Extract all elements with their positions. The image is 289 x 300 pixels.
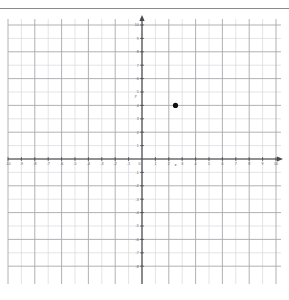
x-axis-tick-label: 5 (208, 162, 210, 166)
y-axis-tick-label: -3 (136, 198, 139, 202)
y-axis-tick-label: 5 (137, 90, 139, 94)
y-axis-tick-label: -8 (136, 265, 139, 269)
x-axis-tick-label: 3 (181, 162, 183, 166)
y-axis-tick-label: 4 (137, 104, 139, 108)
x-axis-tick-label: -1 (127, 162, 130, 166)
x-axis-tick-label: -6 (60, 162, 63, 166)
minor-gridlines (8, 19, 281, 284)
axis-lines (8, 15, 283, 284)
x-axis-tick-label: -8 (33, 162, 36, 166)
x-axis-tick-label: 8 (248, 162, 250, 166)
x-axis-tick-label: 4 (195, 162, 197, 166)
x-axis-tick-label: -4 (87, 162, 90, 166)
y-axis-tick-label: 10 (135, 23, 139, 27)
plotted-point (173, 103, 178, 108)
y-axis-tick-label: -1 (136, 171, 139, 175)
x-axis-tick-label: 7 (235, 162, 237, 166)
major-gridlines (8, 19, 281, 284)
x-axis-tick-label: 10 (274, 162, 278, 166)
y-axis-arrow-icon (139, 15, 144, 21)
x-axis-tick-label: 1 (154, 162, 156, 166)
y-axis-tick-label: 7 (137, 64, 139, 68)
y-axis-tick-label: 6 (137, 77, 139, 81)
x-axis-tick-label: 9 (262, 162, 264, 166)
x-axis-tick-label: 0 (139, 162, 141, 166)
x-axis-tick-label: 2 (168, 162, 170, 166)
coordinate-plane-page: -10-9-8-7-6-5-4-3-2-1012345678910-8-7-6-… (0, 0, 289, 300)
x-axis-tick-label: -9 (20, 162, 23, 166)
y-axis-tick-label: 3 (137, 117, 139, 121)
data-points (173, 103, 178, 108)
y-axis-tick-label: 1 (137, 144, 139, 148)
x-axis-tick-label: -2 (114, 162, 117, 166)
x-axis-tick-label: -5 (73, 162, 76, 166)
x-axis-tick-label: -10 (5, 162, 10, 166)
y-axis-tick-label: -4 (136, 211, 139, 215)
x-axis-tick-label: 6 (221, 162, 223, 166)
y-axis-tick-label: -5 (136, 224, 139, 228)
x-axis-tick-label: -7 (47, 162, 50, 166)
coordinate-plane-chart: -10-9-8-7-6-5-4-3-2-1012345678910-8-7-6-… (0, 0, 289, 300)
x-axis-arrow-icon (277, 156, 283, 161)
y-axis-tick-label: -6 (136, 238, 139, 242)
y-axis-tick-label: -7 (136, 251, 139, 255)
y-axis-tick-label: 2 (137, 131, 139, 135)
x-axis-label: x (173, 162, 176, 167)
plot-svg: -10-9-8-7-6-5-4-3-2-1012345678910-8-7-6-… (0, 0, 289, 300)
y-axis-tick-label: -2 (136, 184, 139, 188)
x-axis-tick-label: -3 (100, 162, 103, 166)
y-axis-tick-label: 8 (137, 50, 139, 54)
y-axis-tick-label: 9 (137, 37, 139, 41)
